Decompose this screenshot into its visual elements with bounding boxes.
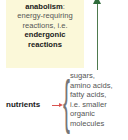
upward-arrow-shaft	[97, 0, 98, 70]
anabolism-title: anabolism	[25, 2, 63, 11]
anabolism-emph-2: reactions	[28, 40, 62, 49]
nutrients-label: nutrients	[6, 100, 40, 109]
nutrient-item: i.e. smaller	[70, 100, 113, 110]
nutrient-item: organic	[70, 109, 113, 119]
nutrient-item: amino acids,	[70, 81, 113, 91]
nutrient-list: sugars, amino acids, fatty acids, i.e. s…	[70, 71, 113, 129]
upward-arrow-head-icon	[93, 0, 101, 4]
anabolism-emph-1: endergonic	[25, 30, 66, 39]
curly-brace-icon: {	[63, 72, 70, 132]
nutrient-item: fatty acids,	[70, 90, 113, 100]
anabolism-line-2: reactions, i.e.	[6, 21, 84, 30]
nutrient-item: sugars,	[70, 71, 113, 81]
anabolism-line-1: energy-requiring	[6, 11, 84, 20]
nutrient-item: molecules	[70, 119, 113, 129]
anabolism-box: anabolism: energy-requiring reactions, i…	[6, 0, 84, 68]
anabolism-colon: :	[63, 2, 65, 11]
